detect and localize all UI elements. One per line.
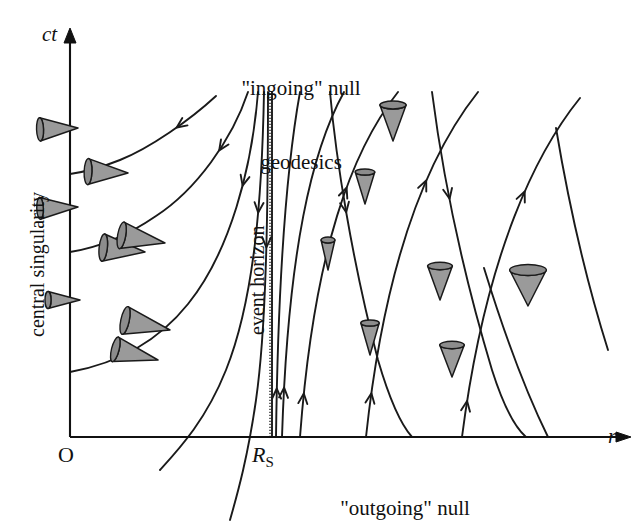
ct-axis-arrowhead bbox=[64, 28, 76, 43]
r-axis-label: r bbox=[608, 424, 616, 449]
schwarzschild-radius-base: R bbox=[252, 442, 265, 467]
outgoing-geodesics-caption: "outgoing" null geodesics bbox=[300, 446, 510, 531]
ingoing-geodesics-caption: "ingoing" null geodesics bbox=[206, 26, 396, 224]
geodesic-curve bbox=[556, 128, 608, 350]
light-cone bbox=[440, 341, 465, 377]
light-cone-cap bbox=[36, 118, 44, 141]
light-cone-cap bbox=[361, 320, 379, 326]
light-cone-body bbox=[40, 116, 79, 141]
central-singularity-label: central singularity bbox=[26, 192, 49, 337]
light-cone bbox=[36, 116, 78, 141]
origin-label: O bbox=[58, 442, 74, 468]
light-cone-body bbox=[440, 345, 465, 377]
light-cone-body bbox=[88, 159, 129, 186]
light-cone-cap bbox=[428, 262, 453, 269]
schwarzschild-radius-subscript: S bbox=[265, 454, 273, 470]
light-cone bbox=[109, 336, 161, 372]
light-cone bbox=[428, 262, 453, 300]
ct-axis-label: ct bbox=[42, 22, 57, 47]
r-axis-arrowhead bbox=[616, 432, 631, 442]
light-cone bbox=[510, 264, 547, 306]
light-cone-body bbox=[428, 266, 453, 300]
light-cone-cap bbox=[84, 158, 93, 184]
event-horizon-label: event horizon bbox=[246, 226, 269, 335]
light-cone bbox=[84, 158, 129, 186]
light-cone bbox=[45, 291, 80, 308]
light-cone-body bbox=[48, 291, 80, 308]
light-cone-cap bbox=[440, 341, 465, 348]
light-cone-cap bbox=[321, 237, 335, 243]
outgoing-caption-line-1: "outgoing" null bbox=[300, 496, 510, 521]
ingoing-caption-line-1: "ingoing" null bbox=[206, 76, 396, 101]
light-cone bbox=[361, 320, 379, 355]
light-cone bbox=[118, 306, 173, 344]
schwarzschild-radius-label: RS bbox=[252, 442, 274, 471]
spacetime-diagram: ct r O RS central singularity event hori… bbox=[0, 0, 640, 531]
light-cone-cap bbox=[510, 264, 547, 275]
ingoing-caption-line-2: geodesics bbox=[206, 150, 396, 175]
geodesic-curve bbox=[484, 268, 548, 437]
